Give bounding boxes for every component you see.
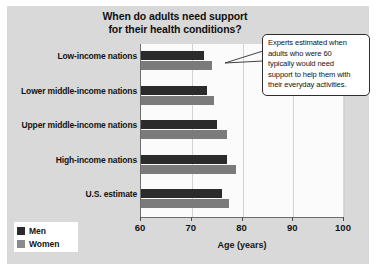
x-tick-label-90: 90	[272, 222, 312, 233]
x-tick-mark-70	[191, 217, 192, 221]
chart-title-line-1: When do adults need support	[60, 10, 290, 23]
x-tick-mark-100	[343, 217, 344, 221]
legend-item-men: Men	[17, 224, 75, 237]
category-label-0: Low-income nations	[1, 51, 137, 61]
bar-group	[141, 182, 343, 217]
x-tick-label-70: 70	[171, 222, 211, 233]
x-tick-label-100: 100	[323, 222, 363, 233]
x-tick-mark-80	[242, 217, 243, 221]
bar-men	[141, 120, 217, 129]
bar-men	[141, 189, 222, 198]
bar-women	[141, 61, 212, 70]
callout-line-4: their everyday activities.	[268, 80, 365, 91]
bar-group	[141, 148, 343, 183]
callout-box: Experts estimated whenadults who were 60…	[262, 34, 370, 96]
bar-men	[141, 51, 204, 60]
chart-title: When do adults need support for their he…	[60, 10, 290, 36]
legend-label-men: Men	[29, 226, 46, 236]
bar-group	[141, 113, 343, 148]
legend-swatch-men-icon	[17, 227, 25, 235]
callout-line-3: support to help them with	[268, 70, 365, 81]
bar-men	[141, 155, 227, 164]
chart-figure: When do adults need support for their he…	[0, 0, 376, 274]
bar-women	[141, 96, 214, 105]
category-axis-labels: Low-income nationsLower middle-income na…	[0, 44, 137, 217]
legend-label-women: Women	[29, 239, 60, 249]
legend-swatch-women-icon	[17, 240, 25, 248]
callout-line-2: typically would need	[268, 59, 365, 70]
chart-title-line-2: for their health conditions?	[60, 23, 290, 36]
x-tick-label-80: 80	[222, 222, 262, 233]
callout-line-0: Experts estimated when	[268, 38, 365, 49]
x-tick-mark-90	[292, 217, 293, 221]
bar-women	[141, 199, 229, 208]
bar-men	[141, 86, 207, 95]
legend-item-women: Women	[17, 237, 75, 250]
legend: Men Women	[14, 222, 78, 252]
bar-women	[141, 130, 227, 139]
category-label-4: U.S. estimate	[1, 189, 137, 199]
x-tick-mark-60	[140, 217, 141, 221]
category-label-3: High-income nations	[1, 155, 137, 165]
callout-line-1: adults who were 60	[268, 49, 365, 60]
x-axis-title: Age (years)	[140, 240, 344, 250]
bar-women	[141, 165, 236, 174]
x-tick-label-60: 60	[120, 222, 160, 233]
callout-text: Experts estimated whenadults who were 60…	[268, 38, 365, 91]
category-label-1: Lower middle-income nations	[1, 86, 137, 96]
category-label-2: Upper middle-income nations	[1, 120, 137, 130]
x-axis: 60708090100	[140, 217, 344, 239]
